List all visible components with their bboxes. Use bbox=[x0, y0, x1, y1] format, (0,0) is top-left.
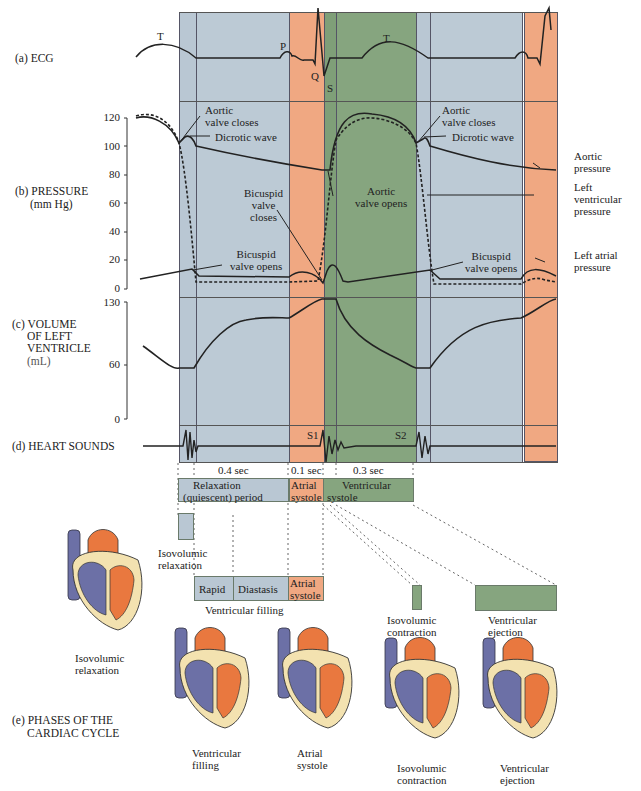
heart-isovolumic-contraction bbox=[385, 638, 459, 739]
heart-caption: Atrialsystole bbox=[297, 747, 328, 771]
heart-caption: Isovolumiccontraction bbox=[397, 762, 447, 786]
heart-ventricular-ejection bbox=[483, 638, 557, 739]
heart-ventricular-filling bbox=[175, 628, 249, 729]
heart-atrial-systole bbox=[278, 628, 352, 729]
heart-isovolumic-relaxation bbox=[68, 530, 142, 631]
heart-caption: Ventricularfilling bbox=[192, 747, 241, 771]
heart-caption: Ventricularejection bbox=[500, 762, 549, 786]
heart-caption: Isovolumicrelaxation bbox=[75, 652, 125, 676]
